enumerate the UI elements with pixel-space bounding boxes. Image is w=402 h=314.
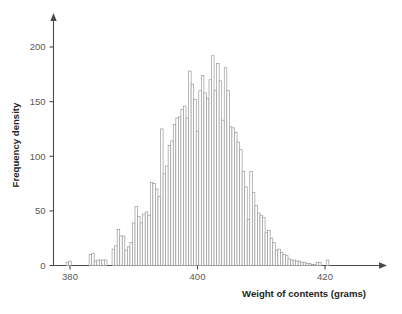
histogram-bar <box>66 262 69 265</box>
histogram-bar <box>234 132 237 265</box>
histogram-bar <box>191 84 194 265</box>
histogram-bar <box>92 253 95 265</box>
histogram-bar <box>199 91 202 266</box>
histogram-bar <box>260 215 263 265</box>
histogram-bar <box>150 182 153 265</box>
x-axis-ticks: 380400420 <box>62 266 333 282</box>
histogram-bar <box>196 131 199 265</box>
y-axis-tick-label: 200 <box>30 41 46 52</box>
histogram-bar <box>283 255 286 266</box>
histogram-bar <box>308 263 311 265</box>
histogram-bar <box>250 172 253 266</box>
histogram-bar <box>148 215 151 265</box>
histogram-bar <box>130 243 133 266</box>
histogram-bar <box>229 127 232 266</box>
histogram-bar <box>273 243 276 266</box>
y-axis-title: Frequency density <box>10 102 21 187</box>
x-axis-tick-label: 380 <box>62 271 78 282</box>
histogram-bar <box>311 264 314 265</box>
y-axis-tick-label: 150 <box>30 96 46 107</box>
histogram-bar <box>240 150 243 266</box>
histogram-bar <box>69 261 72 265</box>
x-axis-tick-label: 400 <box>190 271 206 282</box>
histogram-bar <box>178 117 181 266</box>
histogram-bar <box>168 145 171 265</box>
y-axis-tick-label: 100 <box>30 151 46 162</box>
histogram-bar <box>296 261 299 265</box>
histogram-bar <box>212 56 215 266</box>
histogram-bar <box>301 262 304 265</box>
histogram-bar <box>201 75 204 265</box>
histogram-bar <box>161 129 164 266</box>
histogram-bar <box>306 263 309 265</box>
histogram-bar <box>117 229 120 265</box>
histogram-bar <box>204 93 207 266</box>
histogram-chart: 050100150200 380400420 Weight of content… <box>0 0 402 314</box>
histogram-bar <box>285 256 288 266</box>
histogram-bar <box>135 207 138 266</box>
histogram-bar <box>291 260 294 265</box>
histogram-bar <box>224 68 227 266</box>
histogram-bar <box>176 118 179 265</box>
histogram-bar <box>158 197 161 266</box>
y-axis-tick-label: 50 <box>35 205 46 216</box>
histogram-bar <box>189 71 192 265</box>
histogram-bar <box>97 260 100 265</box>
y-axis-ticks: 050100150200 <box>30 41 54 271</box>
histogram-bar <box>99 260 102 265</box>
histogram-bar <box>268 231 271 266</box>
x-axis-title: Weight of contents (grams) <box>242 288 366 299</box>
histogram-bar <box>102 260 105 265</box>
y-axis-arrowhead <box>50 13 56 21</box>
histogram-bar <box>245 187 248 266</box>
histogram-bar <box>138 216 141 265</box>
x-axis-arrowhead <box>379 262 387 268</box>
histogram-bar <box>206 98 209 265</box>
histogram-bar <box>194 99 197 265</box>
histogram-bar <box>186 118 189 265</box>
x-axis-tick-label: 420 <box>317 271 333 282</box>
histogram-bar <box>232 128 235 266</box>
histogram-bar <box>112 249 115 265</box>
histogram-bar <box>140 223 143 266</box>
histogram-bar <box>219 81 222 266</box>
histogram-bar <box>171 141 174 266</box>
histogram-bar <box>288 259 291 266</box>
histogram-bar <box>303 262 306 265</box>
histogram-bar <box>263 217 266 265</box>
histogram-bar <box>183 106 186 266</box>
histogram-bar <box>89 255 92 266</box>
histogram-bar <box>132 223 135 266</box>
histogram-bar <box>227 91 230 266</box>
histogram-bar <box>214 91 217 266</box>
histogram-bar <box>319 262 322 265</box>
histogram-bars <box>66 56 329 266</box>
histogram-bar <box>94 261 97 265</box>
histogram-bar <box>257 213 260 265</box>
histogram-bar <box>181 109 184 265</box>
histogram-bar <box>122 236 125 266</box>
histogram-bar <box>217 63 220 265</box>
histogram-bar <box>155 189 158 265</box>
histogram-bar <box>275 250 278 265</box>
histogram-bar <box>143 214 146 265</box>
histogram-bar <box>252 192 255 265</box>
histogram-bar <box>255 205 258 265</box>
histogram-bar <box>242 172 245 266</box>
histogram-bar <box>265 233 268 266</box>
histogram-bar <box>298 261 301 265</box>
histogram-bar <box>127 247 130 266</box>
histogram-bar <box>115 246 118 266</box>
histogram-bar <box>326 260 329 265</box>
histogram-bar <box>120 236 123 266</box>
histogram-bar <box>209 80 212 266</box>
histogram-bar <box>163 174 166 266</box>
histogram-bar <box>316 262 319 265</box>
histogram-bar <box>293 260 296 265</box>
histogram-bar <box>104 260 107 265</box>
y-axis-tick-label: 0 <box>40 260 45 271</box>
y-axis <box>50 13 56 266</box>
histogram-bar <box>153 184 156 266</box>
histogram-bar <box>270 238 273 265</box>
histogram-bar <box>145 212 148 266</box>
